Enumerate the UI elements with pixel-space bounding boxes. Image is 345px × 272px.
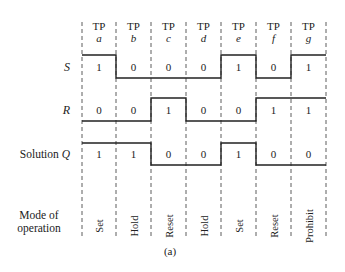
s-value: 0: [166, 61, 172, 73]
tp-label: TP: [232, 20, 245, 32]
tp-letter: b: [131, 32, 137, 44]
tp-letter: c: [166, 32, 171, 44]
r-value: 0: [236, 104, 242, 116]
tp-label: TP: [267, 20, 280, 32]
s-value: 0: [201, 61, 207, 73]
row-label-q: Solution Q: [20, 148, 71, 160]
r-value: 1: [166, 104, 172, 116]
timing-diagram-svg: TPa101SetTPb001HoldTPc010ResetTPd000Hold…: [0, 0, 345, 272]
r-value: 0: [131, 104, 137, 116]
mode-label: Reset: [269, 214, 280, 237]
q-value: 1: [96, 148, 102, 160]
tp-letter: d: [201, 32, 207, 44]
mode-label: Reset: [164, 214, 175, 237]
mode-row-label-line2: operation: [17, 222, 61, 235]
mode-label: Set: [234, 219, 245, 233]
tp-letter: g: [306, 32, 312, 44]
s-value: 1: [96, 61, 102, 73]
r-value: 0: [201, 104, 207, 116]
tp-label: TP: [127, 20, 140, 32]
s-value: 0: [271, 61, 277, 73]
q-value: 1: [236, 148, 242, 160]
s-value: 1: [306, 61, 312, 73]
mode-label: Hold: [129, 215, 140, 237]
mode-label: Prohibit: [304, 209, 315, 243]
mode-row-label-line1: Mode of: [19, 209, 58, 221]
q-value: 1: [131, 148, 137, 160]
q-value: 0: [166, 148, 172, 160]
mode-label: Hold: [199, 215, 210, 237]
tp-label: TP: [302, 20, 315, 32]
tp-letter: f: [272, 32, 277, 44]
tp-letter: e: [236, 32, 241, 44]
q-value: 0: [201, 148, 207, 160]
q-value: 0: [271, 148, 277, 160]
tp-label: TP: [197, 20, 210, 32]
row-label-r: R: [62, 103, 71, 117]
r-value: 0: [96, 104, 102, 116]
q-label-prefix: Solution: [20, 148, 62, 160]
tp-label: TP: [162, 20, 175, 32]
q-label-symbol: Q: [62, 148, 71, 160]
figure-caption: (a): [164, 245, 177, 258]
tp-letter: a: [96, 32, 102, 44]
q-value: 0: [306, 148, 312, 160]
s-value: 0: [131, 61, 137, 73]
row-label-s: S: [64, 60, 70, 74]
sr-latch-timing-diagram: TPa101SetTPb001HoldTPc010ResetTPd000Hold…: [0, 0, 345, 272]
tp-label: TP: [93, 20, 106, 32]
r-value: 1: [271, 104, 277, 116]
mode-label: Set: [94, 219, 105, 233]
s-value: 1: [236, 61, 242, 73]
r-value: 1: [306, 104, 312, 116]
